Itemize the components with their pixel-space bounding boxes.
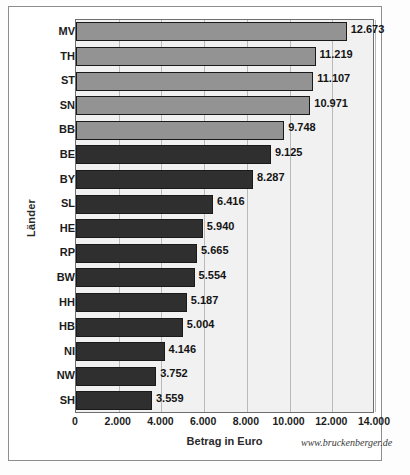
bar-row: 11.219 — [76, 45, 373, 70]
x-tick-label: 10.000 — [273, 415, 305, 427]
x-tick-label: 14.000 — [358, 415, 390, 427]
bar-value-label: 11.219 — [316, 48, 353, 60]
gridline — [375, 20, 376, 412]
category-label: SH — [39, 388, 75, 413]
bar-value-label: 10.971 — [310, 97, 348, 109]
bar-row: 5.187 — [76, 291, 373, 316]
category-label: BE — [39, 142, 75, 167]
bar — [76, 72, 313, 91]
category-label: ST — [39, 68, 75, 93]
category-axis-labels: MVTHSTSNBBBEBYSLHERPBWHHHBNINWSH — [39, 19, 75, 413]
bar-row: 9.748 — [76, 118, 373, 143]
plot-area: 12.67311.21911.10710.9719.7489.1258.2876… — [75, 19, 374, 413]
x-tick-label: 6.000 — [190, 415, 216, 427]
x-tick-label: 0 — [72, 415, 78, 427]
bar-value-label: 8.287 — [253, 171, 285, 183]
y-axis-title: Länder — [25, 188, 37, 248]
bar — [76, 96, 310, 115]
bar-value-label: 5.554 — [195, 269, 227, 281]
bar-value-label: 3.559 — [152, 392, 184, 404]
category-label: BW — [39, 265, 75, 290]
bar — [76, 268, 195, 287]
category-label: BB — [39, 117, 75, 142]
bar — [76, 47, 316, 66]
bar-value-label: 5.187 — [187, 294, 219, 306]
category-label: SL — [39, 191, 75, 216]
bar-value-label: 6.416 — [213, 195, 245, 207]
bar — [76, 367, 156, 386]
category-label: HE — [39, 216, 75, 241]
bar-value-label: 5.665 — [197, 244, 229, 256]
bar-row: 8.287 — [76, 168, 373, 193]
bar-value-label: 5.004 — [183, 318, 215, 330]
bar — [76, 318, 183, 337]
bar — [76, 244, 197, 263]
source-watermark: www.bruckenberger.de — [301, 437, 392, 448]
bar — [76, 219, 203, 238]
bar-row: 5.554 — [76, 266, 373, 291]
bar-value-label: 11.107 — [313, 72, 350, 84]
bar-series: 12.67311.21911.10710.9719.7489.1258.2876… — [76, 20, 373, 412]
bar — [76, 342, 165, 361]
x-tick-label: 12.000 — [315, 415, 347, 427]
category-label: TH — [39, 44, 75, 69]
bar-row: 5.665 — [76, 241, 373, 266]
bar-value-label: 5.940 — [203, 220, 235, 232]
bar — [76, 391, 152, 410]
x-axis-tick-labels: 02.0004.0006.0008.00010.00012.00014.000 — [75, 415, 374, 431]
bar — [76, 145, 271, 164]
bar — [76, 195, 213, 214]
bar-row: 9.125 — [76, 143, 373, 168]
bar-row: 11.107 — [76, 69, 373, 94]
x-tick-label: 4.000 — [147, 415, 173, 427]
category-label: SN — [39, 93, 75, 118]
scanned-page: Länder MVTHSTSNBBBEBYSLHERPBWHHHBNINWSH … — [0, 0, 410, 475]
category-label: BY — [39, 167, 75, 192]
bar — [76, 293, 187, 312]
chart-frame: Länder MVTHSTSNBBBEBYSLHERPBWHHHBNINWSH … — [8, 6, 382, 461]
category-label: RP — [39, 240, 75, 265]
category-label: MV — [39, 19, 75, 44]
bar-row: 10.971 — [76, 94, 373, 119]
x-tick-label: 2.000 — [105, 415, 131, 427]
bar-row: 12.673 — [76, 20, 373, 45]
category-label: HH — [39, 290, 75, 315]
bar — [76, 170, 253, 189]
bar — [76, 121, 284, 140]
category-label: NI — [39, 339, 75, 364]
bar — [76, 22, 347, 41]
bar-value-label: 9.748 — [284, 121, 316, 133]
bar-row: 5.940 — [76, 217, 373, 242]
bar-value-label: 4.146 — [165, 343, 197, 355]
category-label: NW — [39, 363, 75, 388]
bar-row: 5.004 — [76, 315, 373, 340]
bar-value-label: 3.752 — [156, 367, 188, 379]
bar-value-label: 9.125 — [271, 146, 303, 158]
bar-row: 6.416 — [76, 192, 373, 217]
bar-row: 3.752 — [76, 364, 373, 389]
x-tick-label: 8.000 — [233, 415, 259, 427]
bar-value-label: 12.673 — [347, 23, 385, 35]
category-label: HB — [39, 314, 75, 339]
bar-row: 3.559 — [76, 389, 373, 414]
bar-row: 4.146 — [76, 340, 373, 365]
